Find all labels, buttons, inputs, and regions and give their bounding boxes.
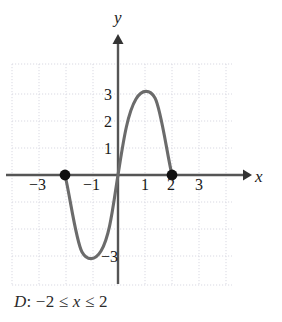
x-axis-label: x [255,167,263,187]
x-tick-label--3: −3 [29,176,46,194]
x-tick-label--1: −1 [83,176,100,194]
caption-right: ≤ 2 [81,292,108,311]
y-tick-label-2: 2 [104,113,112,131]
x-tick-label-1: 1 [141,176,149,194]
domain-caption: D: −2 ≤ x ≤ 2 [14,292,108,312]
graph-figure: x y −3 −1 1 2 3 1 2 3 −3 D: −2 ≤ x ≤ 2 [0,0,282,322]
caption-prefix: D [14,292,26,311]
y-axis-label: y [114,8,122,28]
coordinate-plane-svg [0,0,282,322]
y-tick-label-3: 3 [104,86,112,104]
x-tick-label-3: 3 [195,176,203,194]
y-tick-label--3: −3 [101,248,118,266]
y-tick-label-1: 1 [104,140,112,158]
caption-colon: : [26,292,35,311]
x-tick-label-2: 2 [167,176,175,194]
caption-left: −2 ≤ [36,292,73,311]
endpoint-dot-left [60,170,71,181]
caption-variable: x [73,292,81,311]
